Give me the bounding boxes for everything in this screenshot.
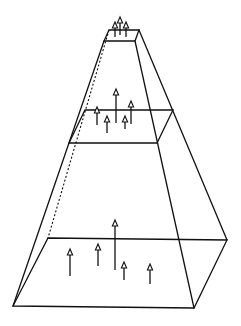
bottom-plane (13, 238, 227, 308)
up-arrow-icon (122, 116, 127, 129)
edge-back-left-hidden (48, 30, 109, 238)
up-arrow-icon (121, 262, 126, 280)
top-platform (104, 30, 139, 41)
up-arrow-icon (113, 89, 118, 123)
edge-front-left (13, 41, 104, 306)
up-arrow-icon (112, 220, 117, 270)
lateral-edges (13, 30, 227, 308)
up-arrow-icon (104, 116, 109, 133)
frustum-diagram (0, 0, 241, 326)
flow-arrows (67, 17, 152, 284)
up-arrow-icon (67, 249, 72, 276)
up-arrow-icon (117, 17, 122, 35)
edge-front-right (135, 41, 194, 308)
cross-section-planes (13, 30, 227, 308)
edge-back-right (139, 30, 227, 240)
up-arrow-icon (128, 101, 133, 124)
up-arrow-icon (95, 244, 100, 266)
up-arrow-icon (147, 264, 152, 284)
